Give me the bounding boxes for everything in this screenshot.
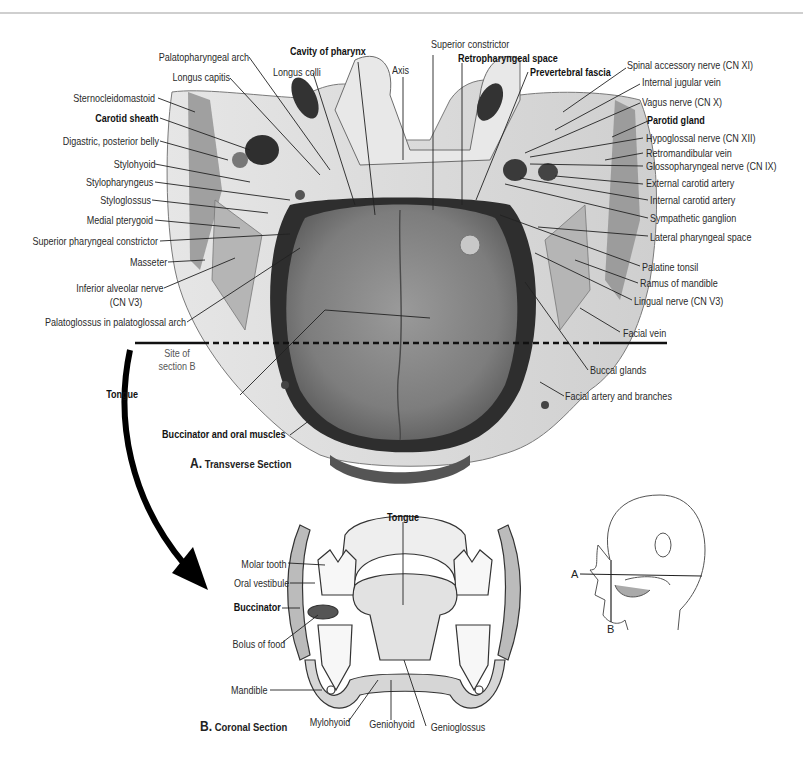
transverse-section-art xyxy=(167,56,656,483)
label-buccal-glands: Buccal glands xyxy=(590,364,646,376)
plane-a-line xyxy=(580,574,702,576)
caption-letter-b: B. xyxy=(200,718,212,734)
label-tongue-transverse: Tongue xyxy=(106,388,138,400)
label-longus-capitis: Longus capitis xyxy=(172,71,230,83)
label-molar-tooth: Molar tooth xyxy=(242,558,287,570)
label-stylopharyngeus: Stylopharyngeus xyxy=(86,176,153,188)
coronal-section-art xyxy=(288,516,521,708)
label-axis: Axis xyxy=(392,64,409,76)
label-retromandibular-vein: Retromandibular vein xyxy=(646,147,732,159)
label-buccinator: Buccinator xyxy=(234,601,281,613)
label-superior-pharyngeal-constrictor: Superior pharyngeal constrictor xyxy=(33,235,158,247)
label-lateral-pharyngeal-space: Lateral pharyngeal space xyxy=(650,231,751,243)
curved-arrow xyxy=(125,350,185,565)
label-ramus-of-mandible: Ramus of mandible xyxy=(640,277,718,289)
caption-transverse-section: A. Transverse Section xyxy=(190,455,291,471)
label-plane-b: B xyxy=(607,623,614,635)
orientation-inset xyxy=(590,495,705,630)
label-genioglossus: Genioglossus xyxy=(427,721,489,733)
label-facial-artery-branches: Facial artery and branches xyxy=(565,390,672,402)
label-masseter: Masseter xyxy=(130,256,167,268)
label-sympathetic-ganglion: Sympathetic ganglion xyxy=(650,212,736,224)
label-buccinator-oral-muscles: Buccinator and oral muscles xyxy=(163,428,286,440)
label-inferior-alveolar-nerve: Inferior alveolar nerve xyxy=(77,282,164,294)
label-cavity-of-pharynx: Cavity of pharynx xyxy=(290,45,366,57)
label-mylohyoid: Mylohyoid xyxy=(304,716,356,728)
label-palatopharyngeal-arch: Palatopharyngeal arch xyxy=(159,51,249,63)
caption-letter-a: A. xyxy=(190,455,202,471)
label-medial-pterygoid: Medial pterygoid xyxy=(87,214,153,226)
label-external-carotid-artery: External carotid artery xyxy=(646,177,734,189)
label-palatoglossus: Palatoglossus in palatoglossal arch xyxy=(45,316,186,328)
label-mandible: Mandible xyxy=(231,684,268,696)
label-internal-jugular-vein: Internal jugular vein xyxy=(642,76,721,88)
label-tongue-coronal: Tongue xyxy=(386,511,420,523)
label-sternocleidomastoid: Sternocleidomastoid xyxy=(73,92,155,104)
label-site-of: Site of xyxy=(156,347,199,359)
label-vagus-nerve: Vagus nerve (CN X) xyxy=(642,96,722,108)
label-carotid-sheath: Carotid sheath xyxy=(96,112,159,124)
label-cn-v3-left: (CN V3) xyxy=(109,296,143,308)
label-internal-carotid-artery: Internal carotid artery xyxy=(650,194,735,206)
label-oral-vestibule: Oral vestibule xyxy=(234,577,289,589)
label-geniohyoid: Geniohyoid xyxy=(364,718,419,730)
label-hypoglossal-nerve: Hypoglossal nerve (CN XII) xyxy=(646,132,755,144)
label-bolus-of-food: Bolus of food xyxy=(232,638,285,650)
label-retropharyngeal-space: Retropharyngeal space xyxy=(458,52,558,64)
caption-text-b: Coronal Section xyxy=(215,721,288,733)
caption-coronal-section: B. Coronal Section xyxy=(200,718,287,734)
label-styloglossus: Styloglossus xyxy=(100,194,151,206)
label-superior-constrictor: Superior constrictor xyxy=(431,38,509,50)
caption-text-a: Transverse Section xyxy=(205,458,292,470)
label-palatine-tonsil: Palatine tonsil xyxy=(642,261,698,273)
label-digastric-posterior-belly: Digastric, posterior belly xyxy=(63,135,159,147)
label-parotid-gland: Parotid gland xyxy=(647,114,705,126)
label-plane-a: A xyxy=(571,568,578,580)
label-longus-colli: Longus colli xyxy=(273,66,321,78)
label-lingual-nerve: Lingual nerve (CN V3) xyxy=(634,295,723,307)
label-stylohyoid: Stylohyoid xyxy=(113,158,155,170)
label-section-b: section B xyxy=(152,360,202,372)
label-glossopharyngeal-nerve: Glossopharyngeal nerve (CN IX) xyxy=(646,160,776,172)
label-spinal-accessory-nerve: Spinal accessory nerve (CN XI) xyxy=(627,59,753,71)
label-prevertebral-fascia: Prevertebral fascia xyxy=(530,66,611,78)
label-facial-vein: Facial vein xyxy=(623,327,666,339)
